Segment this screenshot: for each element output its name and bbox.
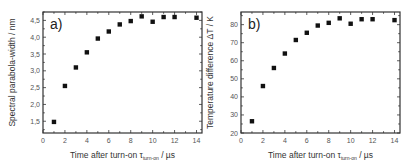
data-point <box>294 38 298 42</box>
y-tick-label: 80 <box>230 21 238 28</box>
y-tick-label: 3,0 <box>30 67 40 74</box>
y-tick-label: 3,5 <box>30 51 40 58</box>
data-point <box>392 18 396 22</box>
data-point <box>52 120 56 124</box>
y-tick-label: 1,5 <box>30 118 40 125</box>
y-tick-label: 4,0 <box>30 34 40 41</box>
data-point <box>370 17 374 21</box>
y-tick-label: 20 <box>230 130 238 137</box>
data-point <box>348 22 352 26</box>
plot-frame <box>241 12 400 133</box>
data-point <box>150 20 154 24</box>
x-tick-label: 10 <box>149 137 157 144</box>
y-tick-label: 50 <box>230 75 238 82</box>
y-axis: 20304050607080 <box>230 16 400 137</box>
data-point <box>85 50 89 54</box>
data-point <box>139 14 143 18</box>
x-tick-label: 6 <box>107 137 111 144</box>
x-tick-label: 8 <box>327 137 331 144</box>
data-series <box>250 16 397 123</box>
data-point <box>261 84 265 88</box>
data-point <box>118 22 122 26</box>
y-axis-title: Temperature difference ΔT / K <box>205 16 215 129</box>
data-point <box>272 66 276 70</box>
x-axis-title: Time after turn-on τturn-on / µs <box>268 150 373 161</box>
data-point <box>327 21 331 25</box>
x-axis: 02468101214 <box>41 12 200 144</box>
x-tick-label: 4 <box>85 137 89 144</box>
data-point <box>359 17 363 21</box>
x-tick-label: 6 <box>305 137 309 144</box>
y-tick-label: 30 <box>230 111 238 118</box>
data-point <box>161 15 165 19</box>
x-tick-label: 12 <box>171 137 179 144</box>
x-tick-label: 8 <box>129 137 133 144</box>
panel-label: b) <box>248 16 260 32</box>
chart-panel-a: 024681012141,52,02,53,03,54,04,5a)Time a… <box>0 0 210 166</box>
plot-frame <box>43 12 202 133</box>
x-axis-title: Time after turn-on τturn-on / µs <box>70 150 175 161</box>
x-tick-label: 0 <box>41 137 45 144</box>
x-tick-label: 4 <box>283 137 287 144</box>
y-tick-label: 2,5 <box>30 84 40 91</box>
x-tick-label: 12 <box>369 137 377 144</box>
data-point <box>96 36 100 40</box>
x-tick-label: 10 <box>347 137 355 144</box>
scatter-chart-temperature-difference: 0246810121420304050607080b)Time after tu… <box>198 0 419 166</box>
y-axis-title: Spectral parabola-width / nm <box>7 18 17 126</box>
data-point <box>107 29 111 33</box>
data-point <box>172 15 176 19</box>
y-tick-label: 40 <box>230 93 238 100</box>
y-tick-label: 60 <box>230 57 238 64</box>
data-point <box>129 19 133 23</box>
chart-panel-b: 0246810121420304050607080b)Time after tu… <box>198 0 408 166</box>
data-point <box>337 16 341 20</box>
y-tick-label: 4,5 <box>30 17 40 24</box>
data-point <box>250 119 254 123</box>
data-point <box>283 51 287 55</box>
data-series <box>52 14 199 124</box>
data-point <box>305 31 309 35</box>
x-tick-label: 0 <box>239 137 243 144</box>
data-point <box>63 84 67 88</box>
x-tick-label: 14 <box>391 137 399 144</box>
scatter-chart-spectral-width: 024681012141,52,02,53,03,54,04,5a)Time a… <box>0 0 210 166</box>
x-axis: 02468101214 <box>239 12 398 144</box>
y-tick-label: 70 <box>230 39 238 46</box>
x-tick-label: 2 <box>63 137 67 144</box>
x-tick-label: 2 <box>261 137 265 144</box>
panel-label: a) <box>50 16 62 32</box>
y-tick-label: 2,0 <box>30 101 40 108</box>
data-point <box>74 65 78 69</box>
data-point <box>316 23 320 27</box>
